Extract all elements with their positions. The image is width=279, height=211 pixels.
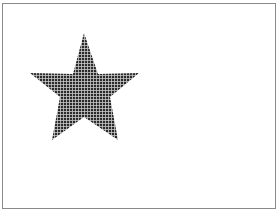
- star-shape[interactable]: [30, 33, 139, 140]
- star-shape-layer: [0, 0, 279, 211]
